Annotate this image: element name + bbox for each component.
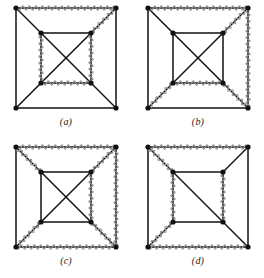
vertex-inner-tr	[220, 169, 225, 174]
vertex-outer-bl	[145, 105, 150, 110]
vertex-outer-tl	[13, 144, 18, 149]
vertex-inner-tr	[88, 30, 93, 35]
vertex-outer-tl	[13, 5, 18, 10]
edge-spoke-bl	[16, 83, 41, 108]
panel-c: (c)	[0, 139, 132, 278]
vertex-outer-bl	[145, 244, 150, 249]
edge-spoke-br	[91, 83, 116, 108]
vertex-inner-tl	[170, 30, 175, 35]
edge-spoke-tl	[148, 8, 173, 33]
wavy-edge-inner-left	[39, 35, 43, 81]
wavy-edge-inner-right	[221, 174, 225, 220]
panel-b: (b)	[132, 0, 264, 139]
wavy-edge-inner-right	[89, 174, 93, 220]
vertex-inner-br	[88, 219, 93, 224]
panel-caption-a: (a)	[0, 116, 132, 128]
vertex-inner-br	[220, 219, 225, 224]
wavy-edge-inner-left	[171, 174, 175, 220]
vertex-inner-bl	[38, 80, 43, 85]
vertex-outer-br	[113, 244, 118, 249]
vertex-outer-br	[245, 105, 250, 110]
graph-figure-grid: (a)(b)(c)(d)	[0, 0, 264, 278]
edge-spoke-br	[223, 222, 248, 247]
edge-inner-diag-1	[173, 172, 223, 222]
vertex-inner-tr	[88, 169, 93, 174]
panel-caption-b: (b)	[132, 116, 264, 128]
wavy-overlay-group	[17, 145, 118, 249]
graph-diagram-b	[132, 0, 264, 120]
vertex-inner-tl	[38, 30, 43, 35]
panel-caption-c: (c)	[0, 255, 132, 267]
vertex-outer-bl	[13, 105, 18, 110]
vertex-inner-tl	[38, 169, 43, 174]
vertex-inner-tl	[170, 169, 175, 174]
vertex-outer-tr	[113, 5, 118, 10]
panel-a: (a)	[0, 0, 132, 139]
wavy-edge-inner-bottom	[175, 81, 221, 85]
vertex-outer-br	[113, 105, 118, 110]
vertex-outer-tr	[245, 5, 250, 10]
vertex-outer-br	[245, 244, 250, 249]
wavy-overlay-group	[18, 6, 115, 85]
vertex-outer-bl	[13, 244, 18, 249]
edge-spoke-tr	[223, 147, 248, 172]
graph-diagram-a	[0, 0, 132, 120]
vertex-inner-tr	[220, 30, 225, 35]
vertex-outer-tl	[145, 5, 150, 10]
vertex-inner-br	[220, 80, 225, 85]
wavy-edge-inner-bottom	[43, 81, 89, 85]
vertex-outer-tr	[113, 144, 118, 149]
vertex-outer-tr	[245, 144, 250, 149]
panel-d: (d)	[132, 139, 264, 278]
vertex-inner-bl	[170, 219, 175, 224]
vertex-inner-br	[88, 80, 93, 85]
vertex-inner-bl	[38, 219, 43, 224]
edge-spoke-tl	[16, 8, 41, 33]
graph-diagram-c	[0, 139, 132, 259]
wavy-edge-inner-right	[89, 35, 93, 81]
panel-caption-d: (d)	[132, 255, 264, 267]
vertex-outer-tl	[145, 144, 150, 149]
graph-diagram-d	[132, 139, 264, 259]
vertex-inner-bl	[170, 80, 175, 85]
